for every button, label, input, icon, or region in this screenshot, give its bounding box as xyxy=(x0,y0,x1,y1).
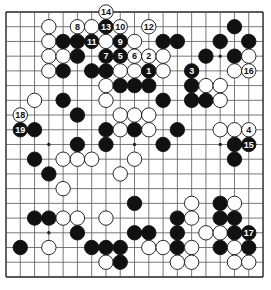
black-stone xyxy=(227,226,241,240)
white-stone xyxy=(127,152,141,166)
black-stone xyxy=(170,123,184,137)
black-stone: 17 xyxy=(242,226,256,240)
black-stone xyxy=(227,49,241,63)
black-stone xyxy=(113,240,127,254)
black-stone xyxy=(56,64,70,78)
black-stone: 3 xyxy=(184,64,198,78)
black-stone xyxy=(227,211,241,225)
black-stone xyxy=(127,196,141,210)
black-stone xyxy=(70,49,84,63)
white-stone: 10 xyxy=(113,20,127,34)
white-stone xyxy=(42,64,56,78)
black-stone xyxy=(213,211,227,225)
black-stone xyxy=(170,226,184,240)
white-stone xyxy=(213,123,227,137)
stones-layer: 14813101211975621316181941517 xyxy=(13,5,256,270)
white-stone xyxy=(227,64,241,78)
white-stone xyxy=(99,93,113,107)
white-stone xyxy=(99,211,113,225)
white-stone xyxy=(156,240,170,254)
black-stone xyxy=(42,167,56,181)
star-point xyxy=(219,143,222,146)
white-stone xyxy=(242,255,256,269)
move-number-label: 13 xyxy=(101,22,111,32)
black-stone xyxy=(184,93,198,107)
black-stone xyxy=(242,240,256,254)
white-stone xyxy=(56,152,70,166)
move-number-label: 16 xyxy=(244,66,254,76)
white-stone xyxy=(242,49,256,63)
white-stone xyxy=(184,240,198,254)
white-stone xyxy=(42,34,56,48)
white-stone: 16 xyxy=(242,64,256,78)
black-stone xyxy=(99,240,113,254)
move-number-label: 2 xyxy=(146,51,151,61)
white-stone: 2 xyxy=(142,49,156,63)
black-stone xyxy=(56,34,70,48)
black-stone xyxy=(142,78,156,92)
white-stone xyxy=(99,34,113,48)
move-number-label: 12 xyxy=(144,22,154,32)
black-stone xyxy=(242,34,256,48)
white-stone xyxy=(156,64,170,78)
white-stone xyxy=(56,181,70,195)
black-stone xyxy=(227,20,241,34)
white-stone xyxy=(42,49,56,63)
black-stone xyxy=(70,226,84,240)
black-stone xyxy=(99,137,113,151)
white-stone xyxy=(227,240,241,254)
move-number-label: 7 xyxy=(103,51,108,61)
black-stone xyxy=(84,64,98,78)
white-stone xyxy=(27,93,41,107)
black-stone xyxy=(156,93,170,107)
white-stone xyxy=(213,78,227,92)
black-stone xyxy=(142,226,156,240)
black-stone xyxy=(84,240,98,254)
black-stone: 1 xyxy=(142,64,156,78)
star-point xyxy=(47,143,50,146)
black-stone xyxy=(42,211,56,225)
black-stone: 11 xyxy=(84,34,98,48)
black-stone xyxy=(113,255,127,269)
white-stone xyxy=(156,49,170,63)
white-stone xyxy=(127,64,141,78)
go-board[interactable]: 14813101211975621316181941517 xyxy=(0,0,271,290)
black-stone xyxy=(27,152,41,166)
white-stone xyxy=(113,64,127,78)
white-stone xyxy=(199,226,213,240)
black-stone xyxy=(199,93,213,107)
white-stone xyxy=(227,123,241,137)
white-stone xyxy=(84,152,98,166)
black-stone: 5 xyxy=(113,49,127,63)
black-stone xyxy=(70,137,84,151)
move-number-label: 10 xyxy=(115,22,125,32)
white-stone xyxy=(42,20,56,34)
star-point xyxy=(133,143,136,146)
black-stone: 13 xyxy=(99,20,113,34)
black-stone xyxy=(99,64,113,78)
black-stone xyxy=(213,240,227,254)
black-stone xyxy=(156,34,170,48)
black-stone xyxy=(170,34,184,48)
black-stone xyxy=(56,93,70,107)
black-stone xyxy=(70,34,84,48)
black-stone xyxy=(156,137,170,151)
move-number-label: 8 xyxy=(75,22,80,32)
white-stone xyxy=(170,255,184,269)
black-stone: 15 xyxy=(242,137,256,151)
white-stone xyxy=(227,255,241,269)
white-stone xyxy=(184,211,198,225)
white-stone xyxy=(84,20,98,34)
black-stone: 19 xyxy=(13,123,27,137)
black-stone xyxy=(227,152,241,166)
white-stone xyxy=(213,226,227,240)
move-number-label: 5 xyxy=(118,51,123,61)
black-stone xyxy=(99,123,113,137)
black-stone xyxy=(113,78,127,92)
move-number-label: 18 xyxy=(15,110,25,120)
black-stone xyxy=(227,137,241,151)
white-stone xyxy=(142,240,156,254)
black-stone: 7 xyxy=(99,49,113,63)
move-number-label: 4 xyxy=(246,125,251,135)
black-stone xyxy=(27,211,41,225)
